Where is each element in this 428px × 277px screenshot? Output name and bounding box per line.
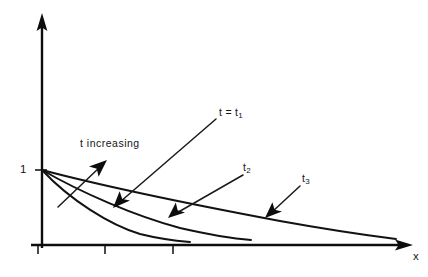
- figure-container: C/Co 1 x t increasing t = t1 t2 t3: [0, 0, 428, 277]
- curve-label-t3-subscript: 3: [305, 177, 310, 186]
- curve1-leader-line: [120, 119, 216, 202]
- annotation-leaders-group: [58, 119, 300, 218]
- curve-label-t1: t = t1: [219, 106, 243, 118]
- t-increasing-annotation: t increasing: [80, 137, 140, 149]
- figure-canvas: [0, 0, 428, 277]
- curves-group: [42, 170, 396, 242]
- curve-label-t1-subscript: 1: [238, 111, 243, 120]
- x-axis-label: x: [413, 250, 419, 262]
- curve-label-t2-subscript: 2: [246, 166, 251, 175]
- curve-t3: [42, 170, 396, 239]
- curve-label-t2: t2: [243, 161, 251, 173]
- curve-label-t3: t3: [302, 172, 310, 184]
- y-tick-label-one: 1: [20, 163, 27, 175]
- t-increasing-arrow-line: [58, 167, 100, 207]
- curve-t2: [42, 170, 251, 240]
- curve-label-t1-text: t = t: [219, 106, 238, 118]
- curve3-leader-line: [272, 186, 300, 212]
- axes-group: [31, 13, 413, 251]
- curve1-leader-arrowhead: [113, 191, 130, 208]
